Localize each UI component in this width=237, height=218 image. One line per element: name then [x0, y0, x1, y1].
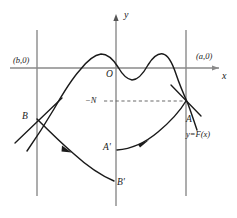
left-boundary-label: (b,0): [13, 56, 29, 65]
y-axis-label: y: [124, 10, 128, 20]
point-a-prime-label: A': [103, 143, 111, 153]
figure-container: (b,0) (a,0) y x O −N B B' A A' y=F(x): [0, 0, 237, 218]
level-minus-n-label: −N: [85, 96, 96, 105]
x-axis-arrowhead: [212, 65, 219, 70]
point-b-label: B: [22, 112, 28, 122]
point-b-prime-label: B': [117, 178, 125, 188]
curve-equation-label: y=F(x): [186, 130, 210, 139]
point-a-label: A: [186, 115, 192, 125]
origin-label: O: [106, 70, 113, 80]
right-boundary-label: (a,0): [196, 52, 212, 61]
x-axis-label: x: [222, 71, 226, 81]
y-axis-arrowhead: [113, 14, 118, 21]
lower-right-branch-Aprime-to-A: [117, 101, 186, 150]
